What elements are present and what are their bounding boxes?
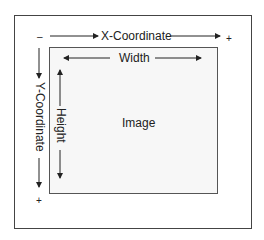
x-axis-label: X-Coordinate bbox=[101, 30, 172, 42]
x-axis-start-sign: – bbox=[37, 31, 43, 43]
image-label: Image bbox=[122, 117, 155, 129]
height-label: Height bbox=[55, 108, 67, 143]
y-axis-end-sign: + bbox=[36, 195, 42, 207]
y-axis-label: Y-Coordinate bbox=[34, 82, 46, 152]
x-axis-end-sign: + bbox=[226, 33, 232, 45]
width-label: Width bbox=[119, 52, 150, 64]
